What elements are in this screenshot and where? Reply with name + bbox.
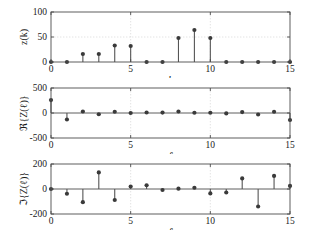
x-tick-label: 10 xyxy=(206,216,216,226)
stem-marker xyxy=(256,204,260,208)
stem-marker xyxy=(192,111,196,115)
y-tick-label: 0 xyxy=(42,57,47,67)
x-tick-label: 0 xyxy=(49,216,54,226)
x-tick-label: 15 xyxy=(285,216,295,226)
y-tick-label: 50 xyxy=(38,32,48,42)
stem-plot-panel-2: 051015-5000500ℓℜ{Z(ℓ)} xyxy=(0,76,310,154)
stem-marker xyxy=(272,174,276,178)
x-tick-label: 10 xyxy=(206,140,216,150)
x-tick-label: 5 xyxy=(128,216,133,226)
stem-marker xyxy=(272,110,276,114)
y-tick-label: 0 xyxy=(42,108,47,118)
plot-canvas-2: 051015-5000500ℓℜ{Z(ℓ)} xyxy=(0,76,310,154)
y-tick-label: 500 xyxy=(33,83,48,93)
stem-plot-panel-1: 051015050100kz(k) xyxy=(0,0,310,78)
stem-marker xyxy=(65,192,69,196)
y-tick-label: 200 xyxy=(33,159,48,169)
y-axis-label: ℜ{Z(ℓ)} xyxy=(18,95,30,130)
stem-marker xyxy=(97,112,101,116)
x-tick-label: 0 xyxy=(49,140,54,150)
stem-marker xyxy=(256,112,260,116)
stem-marker xyxy=(176,109,180,113)
y-axis-label: ℑ{Z(ℓ)} xyxy=(18,172,30,206)
stem-marker xyxy=(208,191,212,195)
stem-marker xyxy=(160,188,164,192)
y-tick-label: 100 xyxy=(33,7,48,17)
plot-canvas-1: 051015050100kz(k) xyxy=(0,0,310,78)
y-axis-label: z(k) xyxy=(18,29,30,45)
y-tick-label: -200 xyxy=(30,209,48,219)
x-tick-label: 10 xyxy=(206,64,216,74)
stem-marker xyxy=(160,111,164,115)
y-tick-label: -500 xyxy=(30,133,48,143)
x-tick-label: 15 xyxy=(285,64,295,74)
stem-marker xyxy=(224,190,228,194)
stem-marker xyxy=(113,198,117,202)
stem-marker xyxy=(224,111,228,115)
stem-marker xyxy=(145,110,149,114)
stem-marker xyxy=(208,111,212,115)
stem-marker xyxy=(129,111,133,115)
stem-marker xyxy=(81,52,85,56)
plot-area xyxy=(51,12,290,62)
x-tick-label: 0 xyxy=(49,64,54,74)
stem-marker xyxy=(81,109,85,113)
stem-marker xyxy=(129,184,133,188)
figure-root: 051015050100kz(k) 051015-5000500ℓℜ{Z(ℓ)}… xyxy=(0,0,310,233)
stem-plot-panel-3: 051015-2000200ℓℑ{Z(ℓ)} xyxy=(0,152,310,230)
stem-marker xyxy=(176,36,180,40)
stem-marker xyxy=(113,110,117,114)
stem-marker xyxy=(97,170,101,174)
stem-marker xyxy=(240,176,244,180)
stem-marker xyxy=(81,200,85,204)
stem-marker xyxy=(145,183,149,187)
stem-marker xyxy=(192,28,196,32)
stem-marker xyxy=(176,187,180,191)
stem-marker xyxy=(129,44,133,48)
plot-canvas-3: 051015-2000200ℓℑ{Z(ℓ)} xyxy=(0,152,310,230)
x-axis-label: ℓ xyxy=(168,226,173,230)
stem-marker xyxy=(97,52,101,56)
stem-marker xyxy=(240,110,244,114)
stem-marker xyxy=(208,36,212,40)
x-tick-label: 5 xyxy=(128,140,133,150)
stem-marker xyxy=(192,186,196,190)
x-tick-label: 5 xyxy=(128,64,133,74)
y-tick-label: 0 xyxy=(42,184,47,194)
x-tick-label: 15 xyxy=(285,140,295,150)
stem-marker xyxy=(113,43,117,47)
stem-marker xyxy=(65,117,69,121)
